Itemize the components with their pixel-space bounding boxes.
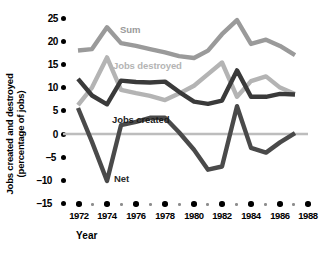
x-tick-dot-1973 — [91, 203, 94, 206]
x-tick-dot-1986 — [277, 201, 283, 207]
x-tick-dot-1982 — [219, 201, 225, 207]
x-tick-dot-1981 — [206, 203, 209, 206]
x-tick-dot-1987 — [292, 203, 295, 206]
chart-container: Jobs created and destroyed (percentage o… — [0, 0, 319, 262]
series-label-jobs-destroyed: Jobs destroyed — [113, 60, 182, 71]
x-tick-dot-1985 — [264, 203, 267, 206]
x-tick-label-1988: 1988 — [291, 210, 319, 221]
x-tick-dot-1974 — [104, 201, 110, 207]
x-tick-dot-1975 — [120, 203, 123, 206]
x-tick-dot-1972 — [76, 201, 82, 207]
x-tick-dot-1984 — [248, 201, 254, 207]
x-tick-dot-1977 — [149, 203, 152, 206]
x-tick-dot-1988 — [305, 201, 311, 207]
plot-area — [0, 0, 319, 262]
x-tick-dot-1979 — [178, 203, 181, 206]
x-tick-dot-1976 — [133, 201, 139, 207]
series-line-net — [78, 106, 295, 181]
series-label-net: Net — [114, 173, 129, 184]
series-label-sum: Sum — [120, 24, 140, 35]
series-line-sum — [78, 20, 295, 58]
x-tick-dot-1978 — [162, 201, 168, 207]
x-tick-dot-1983 — [235, 203, 238, 206]
x-axis-title: Year — [76, 230, 98, 241]
series-label-jobs-created: Jobs created — [112, 114, 169, 125]
x-tick-dot-1980 — [191, 201, 197, 207]
